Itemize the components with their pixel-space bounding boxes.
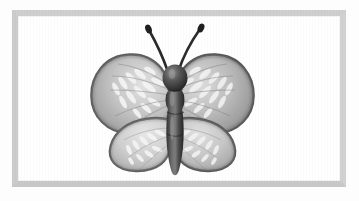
abdomen xyxy=(166,108,183,175)
butterfly-figure: Butterfly Illustration xyxy=(18,16,340,181)
image-canvas: Butterfly Illustration butterfly xyxy=(0,0,359,201)
artwork-stage: Butterfly Illustration xyxy=(18,16,340,181)
figure-caption: butterfly xyxy=(0,0,1,1)
head xyxy=(163,65,188,92)
